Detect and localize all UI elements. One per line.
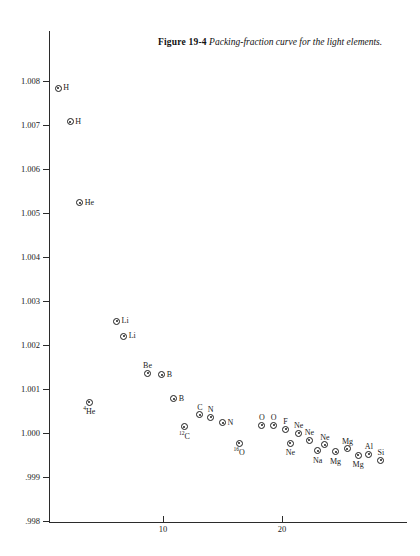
data-point-label: 16O [233, 449, 244, 457]
data-point-label: Ne [294, 422, 303, 430]
y-tick-mark [43, 389, 49, 390]
data-point-label: Ne [305, 429, 314, 437]
figure-page: Figure 19-4 Packing-fraction curve for t… [0, 0, 420, 556]
y-tick-mark [43, 521, 49, 522]
data-point [270, 422, 277, 429]
data-point [219, 419, 226, 426]
y-tick-label: 1.008 [6, 77, 40, 86]
data-point [314, 447, 321, 454]
data-point [120, 333, 127, 340]
data-point [67, 118, 74, 125]
data-point-label: Mg [342, 438, 353, 446]
data-point [355, 452, 362, 459]
data-point-label: F [283, 418, 287, 426]
y-tick-label: 1.000 [6, 429, 40, 438]
data-point [113, 318, 120, 325]
x-tick-mark [282, 516, 283, 522]
data-point [55, 85, 62, 92]
data-point-label: 4He [83, 408, 95, 416]
y-tick-label: .999 [6, 473, 40, 482]
data-point-label: O [259, 414, 265, 422]
data-point [332, 448, 339, 455]
y-tick-label: 1.003 [6, 297, 40, 306]
y-tick-label: 1.005 [6, 209, 40, 218]
data-point-label: O [271, 414, 277, 422]
y-tick-mark [43, 433, 49, 434]
data-point-label: Al [365, 443, 373, 451]
data-point-label: Li [122, 317, 129, 325]
data-point-label: Ne [286, 449, 295, 457]
y-axis-line [49, 31, 50, 523]
y-tick-label: 1.001 [6, 385, 40, 394]
data-point [158, 371, 165, 378]
data-point [196, 411, 203, 418]
isotope-mass-number: 12 [179, 430, 185, 436]
data-point-label: 12C [179, 433, 190, 441]
y-tick-label: 1.006 [6, 165, 40, 174]
x-tick-label: 10 [151, 525, 175, 534]
data-point [282, 426, 289, 433]
data-point [306, 437, 313, 444]
data-point-label: Mg [353, 461, 364, 469]
data-point-label: Si [377, 449, 384, 457]
y-tick-label: .998 [6, 517, 40, 526]
data-point [344, 445, 351, 452]
data-point [287, 440, 294, 447]
data-point-label: Ne [320, 434, 329, 442]
scatter-plot: .998.9991.0001.0011.0021.0031.0041.0051.… [0, 0, 420, 556]
data-point [295, 430, 302, 437]
data-point-label: H [75, 118, 81, 126]
isotope-mass-number: 16 [233, 446, 239, 452]
y-tick-label: 1.007 [6, 121, 40, 130]
isotope-mass-number: 4 [83, 406, 86, 412]
data-point-label: N [228, 419, 234, 427]
x-tick-mark [163, 516, 164, 522]
y-tick-mark [43, 169, 49, 170]
data-point [321, 441, 328, 448]
y-tick-mark [43, 81, 49, 82]
data-point [144, 370, 151, 377]
data-point [365, 451, 372, 458]
data-point [170, 395, 177, 402]
data-point-label: B [179, 395, 184, 403]
x-axis-line [49, 522, 407, 523]
data-point [258, 422, 265, 429]
data-point-label: B [167, 371, 172, 379]
data-point-label: C [197, 404, 202, 412]
data-point-label: Na [313, 457, 322, 465]
data-point-label: N [208, 406, 214, 414]
x-tick-label: 20 [270, 525, 294, 534]
data-point-label: H [63, 84, 69, 92]
y-tick-mark [43, 257, 49, 258]
data-point-label: Mg [330, 458, 341, 466]
y-tick-mark [43, 477, 49, 478]
y-tick-label: 1.004 [6, 253, 40, 262]
y-tick-mark [43, 213, 49, 214]
y-tick-label: 1.002 [6, 341, 40, 350]
data-point-label: He [85, 199, 94, 207]
data-point [76, 199, 83, 206]
data-point-label: Li [129, 332, 136, 340]
y-tick-mark [43, 345, 49, 346]
data-point [207, 414, 214, 421]
data-point [86, 399, 93, 406]
data-point [377, 457, 384, 464]
y-tick-mark [43, 301, 49, 302]
data-point-label: Be [143, 362, 152, 370]
y-tick-mark [43, 125, 49, 126]
